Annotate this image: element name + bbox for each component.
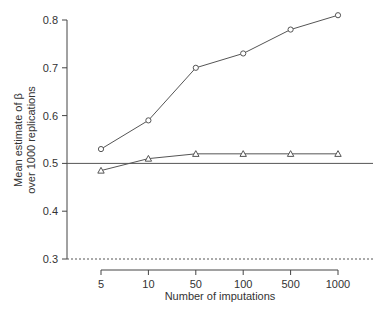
y-tick-label: 0.6	[43, 110, 58, 122]
x-tick-label: 1000	[326, 278, 350, 290]
y-axis-title: Mean estimate of β over 1000 replication…	[12, 86, 37, 194]
x-axis: 510501005001000	[98, 270, 350, 290]
x-tick-label: 50	[190, 278, 202, 290]
circle-marker	[146, 118, 151, 123]
y-tick-label: 0.4	[43, 205, 58, 217]
y-axis: 0.30.40.50.60.70.8	[43, 14, 67, 265]
x-tick-label: 500	[281, 278, 299, 290]
circle-marker	[193, 65, 198, 70]
x-tick-label: 10	[142, 278, 154, 290]
circle-marker	[241, 51, 246, 56]
line-chart: 0.30.40.50.60.70.8 Mean estimate of β ov…	[0, 0, 384, 318]
x-axis-title: Number of imputations	[165, 290, 276, 302]
svg-text:over 1000 replications: over 1000 replications	[25, 86, 37, 194]
svg-text:Mean estimate of β: Mean estimate of β	[12, 93, 24, 187]
y-tick-label: 0.5	[43, 157, 58, 169]
x-tick-label: 5	[98, 278, 104, 290]
y-tick-label: 0.3	[43, 253, 58, 265]
series-group	[98, 13, 341, 174]
triangle-series	[98, 151, 341, 173]
y-tick-label: 0.8	[43, 14, 58, 26]
x-tick-label: 100	[234, 278, 252, 290]
circle-marker	[335, 13, 340, 18]
circle-marker	[98, 146, 103, 151]
circle-series	[98, 13, 340, 152]
circle-marker	[288, 27, 293, 32]
y-tick-label: 0.7	[43, 62, 58, 74]
